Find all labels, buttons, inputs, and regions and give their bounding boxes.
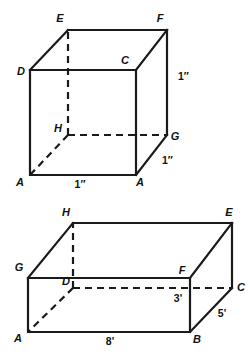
cube-vertex-labels: E F D C H G A A bbox=[15, 12, 180, 188]
prism-vertex-label-H: H bbox=[62, 206, 71, 218]
prism-vertex-labels: H E G D F C A B bbox=[13, 206, 246, 345]
prism-dimension-depth: 5' bbox=[218, 307, 226, 319]
cube-edge-C-F bbox=[136, 30, 167, 70]
cube-figure: E F D C H G A A 1″ 1″ 1″ bbox=[0, 0, 250, 190]
cube-dimension-depth: 1″ bbox=[162, 154, 173, 166]
cube-vertex-label-C: C bbox=[121, 54, 130, 66]
prism-front-face-path bbox=[28, 278, 190, 332]
cube-vertex-label-G: G bbox=[171, 130, 180, 142]
prism-vertex-label-B: B bbox=[193, 333, 201, 345]
cube-vertex-label-E: E bbox=[56, 12, 64, 24]
rectangular-prism-figure: H E G D F C A B 3' 5' 8' bbox=[0, 190, 250, 359]
prism-solid-edges bbox=[28, 223, 232, 332]
geometry-figures-container: E F D C H G A A 1″ 1″ 1″ bbox=[0, 0, 250, 359]
prism-vertex-label-D: D bbox=[62, 275, 70, 287]
prism-dimension-height: 3' bbox=[174, 292, 182, 304]
prism-hidden-edge-D-to-A bbox=[28, 288, 73, 332]
cube-vertex-label-F: F bbox=[157, 12, 164, 24]
cube-hidden-edge-H-to-A bbox=[30, 135, 68, 175]
cube-dimension-height: 1″ bbox=[178, 70, 189, 82]
prism-dimension-labels: 3' 5' 8' bbox=[106, 292, 226, 347]
cube-hidden-edges bbox=[30, 30, 167, 175]
cube-vertex-label-A: A bbox=[15, 176, 24, 188]
prism-edge-F-E bbox=[190, 223, 232, 278]
prism-dimension-length: 8' bbox=[106, 335, 114, 347]
cube-vertex-label-H: H bbox=[54, 122, 63, 134]
cube-vertex-label-D: D bbox=[17, 65, 25, 77]
prism-vertex-label-G: G bbox=[15, 261, 24, 273]
cube-vertex-label-B: A bbox=[135, 176, 144, 188]
cube-edge-D-E bbox=[30, 30, 68, 70]
prism-vertex-label-A: A bbox=[13, 332, 22, 344]
prism-vertex-label-F: F bbox=[179, 264, 186, 276]
cube-front-face-path bbox=[30, 70, 136, 175]
prism-edge-G-H bbox=[28, 223, 73, 278]
prism-vertex-label-E: E bbox=[225, 206, 233, 218]
cube-dimension-width: 1″ bbox=[75, 178, 86, 190]
prism-vertex-label-C: C bbox=[237, 281, 246, 293]
